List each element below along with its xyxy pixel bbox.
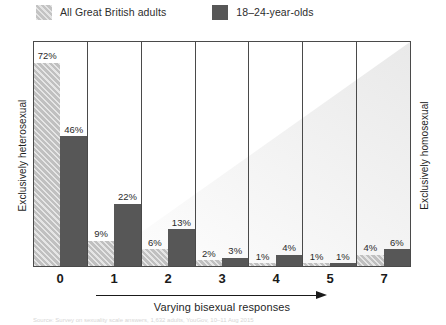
bar-2-18-24	[168, 229, 194, 266]
arrow-line	[96, 295, 316, 296]
solid-dark-gray-swatch-icon	[212, 5, 228, 20]
bar-4-18-24	[276, 255, 302, 266]
bar-column-4: 1%4%	[249, 42, 303, 266]
x-axis-title: Varying bisexual responses	[33, 301, 411, 313]
left-axis-title: Exclusively heterosexual	[17, 71, 28, 241]
bar-column-3: 2%3%	[196, 42, 250, 266]
legend-label: 18–24-year-olds	[236, 6, 313, 18]
bar-7-all-adults	[357, 255, 383, 266]
bar-group-3-series-1: 3%	[222, 42, 248, 266]
bar-value-label: 22%	[114, 191, 140, 202]
legend-label: All Great British adults	[60, 6, 166, 18]
bar-value-label: 2%	[196, 248, 222, 259]
legend-item-18-24-year-olds: 18–24-year-olds	[212, 5, 313, 20]
bar-group-3-series-0: 2%	[196, 42, 222, 266]
x-axis-tick-labels: 0123457	[33, 269, 411, 289]
bar-5-18-24	[330, 263, 356, 266]
bar-4-all-adults	[249, 263, 275, 266]
bar-column-5: 1%1%	[303, 42, 357, 266]
bar-0-18-24	[60, 136, 86, 266]
x-tick-2: 2	[141, 269, 195, 289]
bar-column-2: 6%13%	[142, 42, 196, 266]
bar-group-7-series-1: 6%	[384, 42, 410, 266]
bar-column-1: 9%22%	[88, 42, 142, 266]
bar-5-all-adults	[303, 263, 329, 266]
bar-1-18-24	[114, 204, 140, 266]
bar-group-4-series-1: 4%	[276, 42, 302, 266]
bar-value-label: 6%	[142, 237, 168, 248]
bar-group-2-series-0: 6%	[142, 42, 168, 266]
source-note: Source: Survey on sexuality scale answer…	[33, 317, 443, 323]
bar-value-label: 46%	[60, 124, 86, 135]
x-tick-4: 4	[249, 269, 303, 289]
bar-3-18-24	[222, 258, 248, 266]
x-tick-1: 1	[87, 269, 141, 289]
hatched-gray-swatch-icon	[36, 5, 52, 20]
bar-value-label: 9%	[88, 228, 114, 239]
chart-container: All Great British adults 18–24-year-olds…	[0, 0, 446, 325]
chart-legend: All Great British adults 18–24-year-olds	[36, 3, 314, 21]
bar-value-label: 1%	[330, 251, 356, 262]
bar-group-4-series-0: 1%	[249, 42, 275, 266]
right-axis-title: Exclusively homosexual	[419, 71, 430, 241]
bar-column-0: 72%46%	[34, 42, 88, 266]
bar-1-all-adults	[88, 241, 114, 266]
legend-item-all-great-british-adults: All Great British adults	[36, 5, 166, 20]
bar-group-0-series-1: 46%	[60, 42, 86, 266]
x-tick-0: 0	[33, 269, 87, 289]
bar-value-label: 1%	[303, 251, 329, 262]
arrow-head-icon	[316, 291, 327, 299]
bar-value-label: 13%	[168, 217, 194, 228]
bar-value-label: 1%	[249, 251, 275, 262]
bar-group-7-series-0: 4%	[357, 42, 383, 266]
bar-7-18-24	[384, 249, 410, 266]
bar-group-1-series-1: 22%	[114, 42, 140, 266]
bar-column-7: 4%6%	[357, 42, 410, 266]
bar-2-all-adults	[142, 249, 168, 266]
bar-value-label: 72%	[34, 50, 60, 61]
bar-group-5-series-0: 1%	[303, 42, 329, 266]
bar-group-5-series-1: 1%	[330, 42, 356, 266]
bar-group-2-series-1: 13%	[168, 42, 194, 266]
bar-value-label: 6%	[384, 237, 410, 248]
bar-value-label: 4%	[276, 242, 302, 253]
x-tick-7: 7	[357, 269, 411, 289]
bar-columns: 72%46%9%22%6%13%2%3%1%4%1%1%4%6%	[34, 42, 410, 266]
bar-value-label: 4%	[357, 242, 383, 253]
bar-value-label: 3%	[222, 245, 248, 256]
bar-0-all-adults	[34, 63, 60, 266]
x-tick-5: 5	[303, 269, 357, 289]
bar-group-0-series-0: 72%	[34, 42, 60, 266]
bar-3-all-adults	[196, 260, 222, 266]
bar-group-1-series-0: 9%	[88, 42, 114, 266]
x-tick-3: 3	[195, 269, 249, 289]
plot-area: 72%46%9%22%6%13%2%3%1%4%1%1%4%6%	[33, 41, 411, 267]
